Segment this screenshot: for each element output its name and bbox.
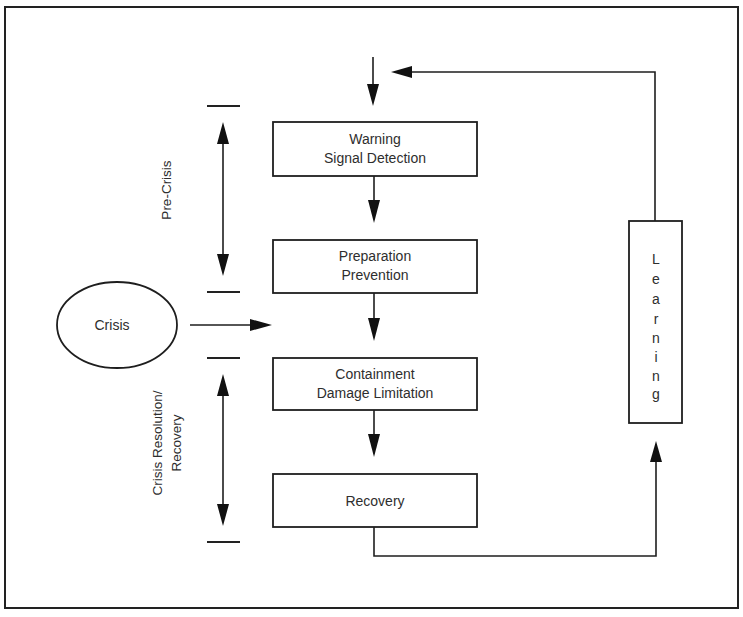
preparation-line-1: Preparation <box>339 248 411 264</box>
entry-arrow <box>367 57 379 106</box>
arrow-crisis-to-flow <box>190 319 272 331</box>
warning-line-2: Signal Detection <box>324 150 426 166</box>
learning-letter: i <box>654 349 657 365</box>
warning-line-1: Warning <box>349 131 401 147</box>
learning-letter: a <box>652 291 660 307</box>
arrow-warning-to-preparation <box>368 176 380 223</box>
stage-warning: Warning Signal Detection <box>273 122 477 176</box>
resolution-span-arrow <box>217 374 229 526</box>
learning-letter: e <box>652 271 660 287</box>
pre-crisis-label: Pre-Crisis <box>159 160 174 219</box>
arrow-preparation-to-containment <box>368 293 380 341</box>
crisis-management-diagram: Warning Signal Detection Preparation Pre… <box>0 0 743 617</box>
arrow-containment-to-recovery <box>368 410 380 457</box>
stage-recovery: Recovery <box>273 474 477 527</box>
learning-letter: r <box>654 311 659 327</box>
resolution-label-line-1: Crisis Resolution/ <box>150 390 165 495</box>
crisis-label: Crisis <box>95 317 130 333</box>
containment-line-2: Damage Limitation <box>317 385 434 401</box>
preparation-line-2: Prevention <box>342 267 409 283</box>
stage-preparation: Preparation Prevention <box>273 240 477 293</box>
crisis-trigger: Crisis <box>57 282 177 368</box>
learning-letter: g <box>652 386 660 402</box>
learning-letter: L <box>652 251 660 267</box>
learning-letter: n <box>652 330 660 346</box>
pre-crisis-span-arrow <box>217 122 229 276</box>
stage-containment: Containment Damage Limitation <box>273 358 477 410</box>
resolution-label-line-2: Recovery <box>169 414 184 471</box>
learning-box-group: L e a r n i n g <box>629 221 682 423</box>
learning-letter: n <box>652 368 660 384</box>
recovery-label: Recovery <box>345 493 404 509</box>
containment-line-1: Containment <box>335 366 414 382</box>
